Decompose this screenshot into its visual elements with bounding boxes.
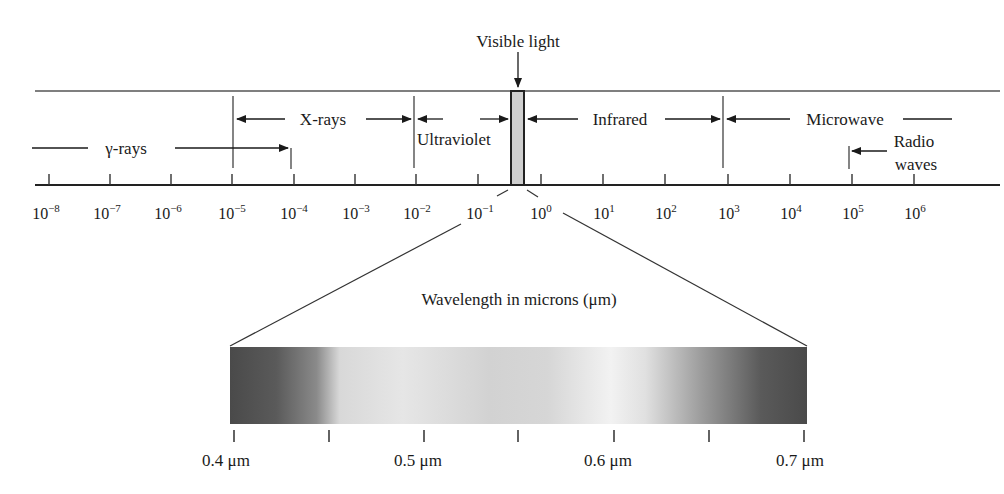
svg-text:10−3: 10−3 [342, 202, 370, 222]
svg-text:10−7: 10−7 [93, 202, 121, 222]
svg-text:10−2: 10−2 [403, 202, 431, 222]
svg-text:10−1: 10−1 [466, 202, 494, 222]
radio-label-line1: Radio [894, 132, 935, 151]
axis-tick-labels: 10−8 10−7 10−6 10−5 10−4 10−3 10−2 10−1 … [32, 202, 926, 222]
svg-text:100: 100 [530, 202, 552, 222]
svg-text:10−5: 10−5 [218, 202, 246, 222]
spectrum-label-07: 0.7 μm [776, 451, 824, 470]
axis-ticks [49, 174, 914, 185]
zoom-connector-left-short [497, 190, 508, 196]
visible-light-label: Visible light [476, 32, 560, 51]
svg-text:106: 106 [904, 202, 926, 222]
svg-text:104: 104 [780, 202, 802, 222]
gamma-label: γ-rays [104, 139, 147, 158]
microwave-label: Microwave [806, 110, 883, 129]
svg-text:10−8: 10−8 [32, 202, 60, 222]
spectrum-label-06: 0.6 μm [584, 451, 632, 470]
spectrum-label-04: 0.4 μm [202, 451, 250, 470]
svg-text:102: 102 [655, 202, 677, 222]
spectrum-ticks [234, 430, 804, 442]
svg-text:10−4: 10−4 [280, 202, 308, 222]
svg-text:103: 103 [718, 202, 740, 222]
spectrum-label-05: 0.5 μm [394, 451, 442, 470]
zoom-connector-right [563, 213, 807, 346]
electromagnetic-spectrum-diagram: Visible light X-rays Ultraviolet γ-rays … [0, 0, 1004, 494]
xray-label: X-rays [300, 110, 346, 129]
uv-label: Ultraviolet [417, 130, 491, 149]
visible-light-band [511, 91, 524, 185]
ir-label: Infrared [593, 110, 648, 129]
svg-text:101: 101 [593, 202, 615, 222]
svg-text:10−6: 10−6 [154, 202, 182, 222]
visible-spectrum-bar [230, 347, 807, 424]
radio-label-line2: waves [895, 155, 937, 174]
zoom-connector-right-short [527, 190, 538, 197]
zoom-connector-left [230, 224, 461, 346]
svg-text:105: 105 [842, 202, 864, 222]
zoom-title: Wavelength in microns (μm) [421, 290, 616, 309]
